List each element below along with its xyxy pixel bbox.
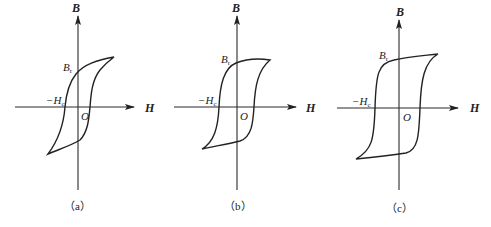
caption-b: （b） xyxy=(224,201,252,212)
origin-label: O xyxy=(240,111,248,122)
coercivity-label: −Hc xyxy=(46,95,64,108)
remanence-label: Br xyxy=(63,62,72,75)
h-axis-label: H xyxy=(470,102,479,114)
b-axis-label: B xyxy=(396,6,404,18)
origin-label: O xyxy=(81,111,89,122)
b-axis-label: B xyxy=(232,2,240,14)
b-axis-label: B xyxy=(72,2,80,14)
coercivity-label: −Hc xyxy=(198,95,216,108)
caption-c: （c） xyxy=(386,203,413,214)
coercivity-label: −Hc xyxy=(352,96,370,109)
h-axis-label: H xyxy=(306,102,315,114)
caption-a: （a） xyxy=(64,201,91,212)
remanence-label: Br xyxy=(379,50,388,63)
panel-a xyxy=(15,16,134,190)
origin-label: O xyxy=(403,112,411,123)
h-axis-label: H xyxy=(145,102,154,114)
panel-b xyxy=(174,16,296,190)
remanence-label: Br xyxy=(221,54,230,67)
